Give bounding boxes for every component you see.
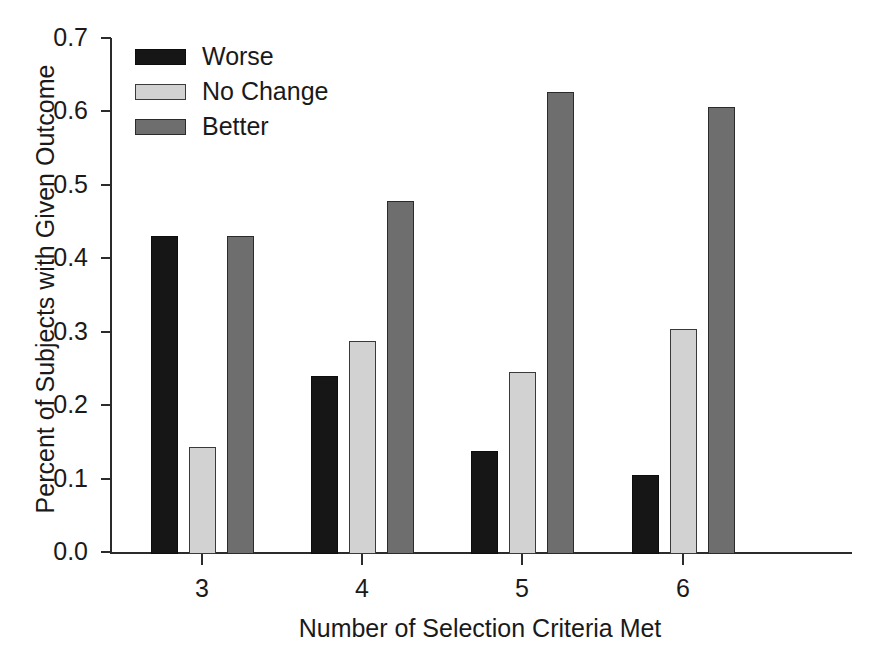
bar-no-change-3 [189, 447, 216, 554]
x-axis-tick [201, 554, 203, 565]
x-axis-tick-label: 6 [676, 576, 690, 601]
x-axis-tick-label: 3 [195, 576, 209, 601]
bar-better-6 [708, 107, 735, 554]
bar-better-5 [547, 92, 574, 554]
legend-swatch-icon [135, 119, 186, 135]
legend-item-label: No Change [202, 79, 328, 104]
x-axis-tick [361, 554, 363, 565]
y-axis-tick-label: 0.0 [0, 539, 88, 564]
y-axis-tick [101, 478, 111, 480]
y-axis-tick-label: 0.6 [0, 98, 88, 123]
x-axis-tick-label: 4 [355, 576, 369, 601]
legend-swatch-icon [135, 84, 186, 100]
x-axis-tick-label: 5 [515, 576, 529, 601]
bar-chart-figure: Percent of Subjects with Given Outcome N… [0, 0, 872, 655]
y-axis-tick [101, 37, 111, 39]
legend-item-better: Better [135, 114, 328, 139]
y-axis-tick [101, 257, 111, 259]
x-axis-tick [682, 554, 684, 565]
x-axis-title: Number of Selection Criteria Met [110, 615, 850, 641]
bar-no-change-5 [509, 372, 536, 554]
y-axis-tick-label: 0.3 [0, 319, 88, 344]
bar-worse-4 [311, 376, 338, 554]
legend-swatch-icon [135, 49, 186, 65]
bar-better-4 [387, 201, 414, 554]
bar-worse-3 [151, 236, 178, 554]
y-axis-tick [101, 184, 111, 186]
y-axis-tick [101, 404, 111, 406]
legend-item-no-change: No Change [135, 79, 328, 104]
bar-worse-5 [471, 451, 498, 554]
bar-worse-6 [632, 475, 659, 554]
legend-item-label: Worse [202, 44, 274, 69]
y-axis-tick-label: 0.5 [0, 172, 88, 197]
bar-better-3 [227, 236, 254, 554]
y-axis-tick-label: 0.2 [0, 392, 88, 417]
chart-legend: WorseNo ChangeBetter [135, 44, 328, 149]
y-axis-tick [101, 551, 111, 553]
y-axis-tick [101, 331, 111, 333]
x-axis-tick [521, 554, 523, 565]
bar-no-change-6 [670, 329, 697, 554]
bar-no-change-4 [349, 341, 376, 554]
legend-item-label: Better [202, 114, 269, 139]
y-axis-tick [101, 110, 111, 112]
y-axis-tick-label: 0.1 [0, 466, 88, 491]
legend-item-worse: Worse [135, 44, 328, 69]
y-axis-tick-label: 0.4 [0, 245, 88, 270]
y-axis-tick-label: 0.7 [0, 25, 88, 50]
